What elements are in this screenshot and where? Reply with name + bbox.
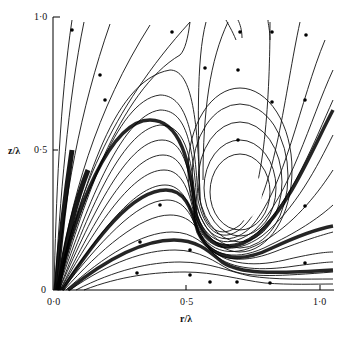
x-tick-0-5: 0·5 [180, 297, 193, 307]
y-tick-1-0: 1·0 [34, 12, 47, 22]
y-tick-0: 0 [41, 285, 46, 295]
x-axis-label: r/λ [180, 314, 192, 324]
streamlines [54, 20, 333, 290]
eddy-core [218, 165, 262, 221]
axes [53, 17, 334, 290]
x-tick-1-0: 1·0 [313, 297, 326, 307]
streamline-plot [0, 0, 352, 337]
x-tick-0-0: 0·0 [47, 297, 60, 307]
y-axis-label: z/λ [8, 146, 20, 156]
y-tick-0-5: 0·5 [34, 145, 47, 155]
